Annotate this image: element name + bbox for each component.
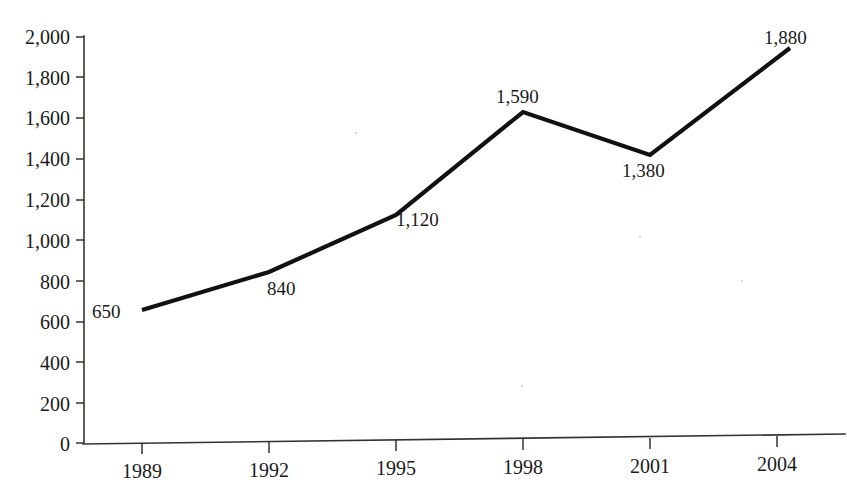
x-axis-line <box>83 434 845 444</box>
y-axis-label-800: 800 <box>40 271 70 293</box>
y-axis-label-1200: 1,200 <box>25 189 70 211</box>
y-axis-ticks <box>76 37 84 443</box>
y-axis-label-1400: 1,400 <box>25 148 70 170</box>
data-label-1995: 1,120 <box>396 209 439 230</box>
y-axis-label-1600: 1,600 <box>25 107 70 129</box>
x-axis-label-1998: 1998 <box>503 456 543 478</box>
data-label-1998: 1,590 <box>496 86 539 107</box>
x-axis-label-2004: 2004 <box>757 453 797 475</box>
y-axis-label-1000: 1,000 <box>25 230 70 252</box>
data-point-labels: 650 840 1,120 1,590 1,380 1,880 <box>92 27 807 322</box>
data-label-2001: 1,380 <box>622 160 665 181</box>
data-label-1992: 840 <box>267 278 296 299</box>
x-axis-label-1992: 1992 <box>249 459 289 481</box>
chart-canvas: 2,000 1,800 1,600 1,400 1,200 1,000 800 … <box>0 0 847 493</box>
data-label-2004: 1,880 <box>764 27 807 48</box>
y-axis-label-2000: 2,000 <box>25 26 70 48</box>
y-axis-labels: 2,000 1,800 1,600 1,400 1,200 1,000 800 … <box>25 26 70 455</box>
data-label-1989: 650 <box>92 301 121 322</box>
x-axis-label-1989: 1989 <box>122 460 162 482</box>
y-axis-label-1800: 1,800 <box>25 67 70 89</box>
scan-artifacts <box>355 132 743 387</box>
x-axis-labels: 1989 1992 1995 1998 2001 2004 <box>122 453 797 482</box>
y-axis-label-400: 400 <box>40 352 70 374</box>
x-axis-label-1995: 1995 <box>376 457 416 479</box>
x-axis-label-2001: 2001 <box>630 455 670 477</box>
data-series-line <box>142 48 790 310</box>
line-chart: 2,000 1,800 1,600 1,400 1,200 1,000 800 … <box>0 0 847 493</box>
y-axis-label-600: 600 <box>40 311 70 333</box>
y-axis-label-200: 200 <box>40 393 70 415</box>
y-axis-label-0: 0 <box>60 433 70 455</box>
